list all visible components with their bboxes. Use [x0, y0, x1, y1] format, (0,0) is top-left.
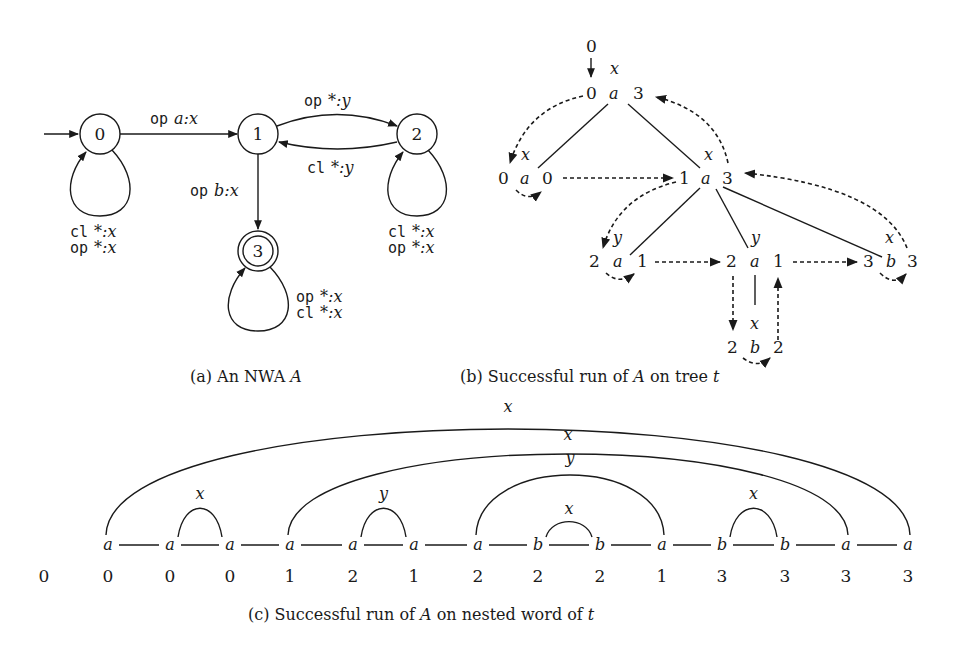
svg-text:x: x — [704, 145, 713, 164]
run-arrows — [510, 96, 907, 364]
tree-node-2a1-left: y 2 a 1 — [589, 228, 648, 271]
svg-text:x: x — [750, 314, 759, 333]
svg-text:3: 3 — [863, 251, 874, 271]
nesting-arc-label: x — [564, 499, 573, 518]
svg-text:a: a — [609, 84, 619, 103]
word-symbol: a — [657, 535, 667, 554]
state-0: 0 — [80, 114, 120, 154]
nesting-arc-label: y — [564, 448, 575, 467]
svg-text:x: x — [521, 145, 530, 164]
word-symbol: a — [348, 535, 358, 554]
word-symbol: a — [473, 535, 483, 554]
word-symbol: a — [103, 535, 113, 554]
svg-text:0: 0 — [498, 168, 509, 188]
word-symbol: a — [225, 535, 235, 554]
tree-node-middle: x 1 a 3 — [679, 145, 733, 188]
tree-node-left: x 0 a 0 — [498, 145, 553, 188]
svg-text:3: 3 — [907, 251, 918, 271]
tree-edges — [538, 104, 882, 305]
svg-text:1: 1 — [637, 251, 648, 271]
word-symbol: b — [780, 535, 790, 554]
panel-a-nwa: 0 1 2 3 opa:x op*:y cl*:y — [44, 91, 446, 386]
self-loop-2 — [388, 150, 447, 216]
nesting-arc-label: x — [563, 425, 572, 444]
nesting-arc-label: x — [749, 484, 758, 503]
panel-c-nested-word: 0 aaaaaaabbabbaa 00012122213333 xxxyyxx … — [39, 397, 914, 624]
state-value: 1 — [285, 566, 296, 586]
tree-node-2a1-middle: y 2 a 1 — [726, 228, 784, 271]
state-value: 0 — [103, 566, 114, 586]
state-2: 2 — [397, 114, 437, 154]
transition-0-1-label: opa:x — [150, 109, 198, 128]
self-loop-0 — [70, 150, 130, 216]
transition-1-2-label: op*:y — [304, 91, 351, 110]
word-symbol: a — [285, 535, 295, 554]
caption-a: (a) An NWA A — [190, 367, 302, 386]
figure-canvas: 0 1 2 3 opa:x op*:y cl*:y — [0, 0, 954, 667]
loop-0-label-2: op*:x — [70, 238, 116, 257]
transition-2-1 — [279, 142, 397, 149]
state-value: 1 — [657, 566, 668, 586]
svg-text:2: 2 — [726, 251, 737, 271]
state-value: 2 — [595, 566, 606, 586]
state-value: 3 — [841, 566, 852, 586]
svg-text:1: 1 — [253, 124, 264, 144]
word-symbol: b — [533, 535, 543, 554]
loop-2-label-2: op*:x — [388, 238, 434, 257]
panel-b-tree-run: 0 x 0 a 3 x 0 a 0 x 1 a 3 y 2 a 1 — [460, 36, 918, 386]
svg-text:2: 2 — [727, 337, 738, 357]
svg-text:2: 2 — [589, 251, 600, 271]
state-sequence-row: 00012122213333 — [103, 566, 914, 586]
nesting-arc-label: y — [378, 484, 389, 503]
svg-text:0: 0 — [95, 124, 106, 144]
nesting-arc — [730, 508, 777, 537]
caption-c: (c) Successful run of A on nested word o… — [248, 605, 595, 624]
transition-1-3-label: opb:x — [190, 181, 239, 200]
svg-text:y: y — [612, 228, 623, 247]
nesting-arc — [361, 508, 406, 537]
svg-text:y: y — [750, 228, 761, 247]
caption-b: (b) Successful run of A on tree t — [460, 367, 720, 386]
state-value: 3 — [717, 566, 728, 586]
tree-node-2b2: x 2 b 2 — [727, 314, 784, 357]
state-1: 1 — [238, 114, 278, 154]
state-value: 0 — [165, 566, 176, 586]
root-initial-state: 0 — [586, 36, 597, 56]
svg-text:3: 3 — [253, 241, 264, 261]
nesting-arc — [546, 522, 592, 537]
svg-text:2: 2 — [412, 124, 423, 144]
svg-text:0: 0 — [586, 83, 597, 103]
nesting-arc — [178, 508, 222, 537]
svg-text:b: b — [750, 338, 760, 357]
state-value: 1 — [409, 566, 420, 586]
tree-node-root: 0 a 3 — [586, 83, 644, 103]
nesting-arc-label: x — [195, 484, 204, 503]
transition-1-2 — [277, 115, 397, 127]
svg-text:b: b — [886, 252, 896, 271]
svg-text:1: 1 — [679, 168, 690, 188]
word-symbol: a — [841, 535, 851, 554]
state-value: 2 — [348, 566, 359, 586]
svg-text:0: 0 — [542, 168, 553, 188]
state-3-final: 3 — [238, 231, 278, 271]
tree-node-3b3: x 3 b 3 — [863, 228, 918, 271]
loop-3-label-2: cl*:x — [296, 303, 342, 322]
svg-text:a: a — [613, 252, 623, 271]
nesting-arcs: xxxyyxx — [106, 397, 910, 537]
root-stack-label: x — [610, 59, 619, 78]
nesting-arc — [106, 429, 910, 535]
svg-text:a: a — [701, 169, 711, 188]
state-value: 3 — [780, 566, 791, 586]
nesting-arc-label: x — [503, 397, 512, 416]
svg-text:a: a — [520, 169, 530, 188]
svg-text:a: a — [750, 252, 760, 271]
state-value: 2 — [473, 566, 484, 586]
word-symbol: a — [903, 535, 913, 554]
word-symbol: b — [717, 535, 727, 554]
word-symbol: b — [595, 535, 605, 554]
state-value: 3 — [903, 566, 914, 586]
svg-text:1: 1 — [773, 251, 784, 271]
word-symbol: a — [409, 535, 419, 554]
svg-text:3: 3 — [633, 83, 644, 103]
word-symbol: a — [165, 535, 175, 554]
